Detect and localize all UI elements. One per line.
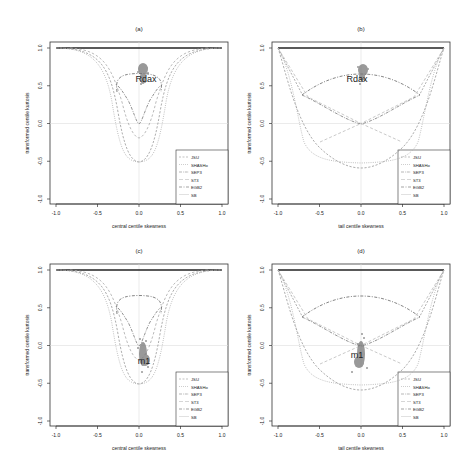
panel-d-xticks: -1.0 -0.5 0.0 0.5 1.0 bbox=[274, 432, 448, 438]
svg-text:SHASHo: SHASHo bbox=[413, 163, 430, 168]
svg-text:SB: SB bbox=[413, 193, 419, 198]
svg-text:JSU: JSU bbox=[413, 155, 421, 160]
panel-c bbox=[47, 264, 228, 429]
svg-text:SEP3: SEP3 bbox=[413, 392, 424, 397]
svg-text:SB: SB bbox=[191, 415, 197, 420]
panel-b-yticks: 1.0 0.5 0.0 -0.5 -1.0 bbox=[259, 44, 265, 203]
panel-a-title: (a) bbox=[135, 26, 142, 32]
svg-text:-1.0: -1.0 bbox=[274, 432, 283, 438]
svg-text:1.0: 1.0 bbox=[259, 44, 265, 51]
panel-b-xticks: -1.0 -0.5 0.0 0.5 1.0 bbox=[274, 210, 448, 216]
svg-text:-1.0: -1.0 bbox=[37, 416, 43, 425]
panel-c-xticks: -1.0 -0.5 0.0 0.5 1.0 bbox=[52, 432, 226, 438]
svg-text:EGB2: EGB2 bbox=[191, 185, 203, 190]
panel-a bbox=[47, 42, 228, 207]
svg-text:1.0: 1.0 bbox=[219, 432, 226, 438]
svg-text:1.0: 1.0 bbox=[37, 44, 43, 51]
svg-text:-0.5: -0.5 bbox=[93, 210, 102, 216]
svg-text:SHASHo: SHASHo bbox=[413, 385, 430, 390]
panel-c-title: (c) bbox=[136, 248, 143, 254]
svg-text:1.0: 1.0 bbox=[219, 210, 226, 216]
panel-c-xlabel: central centile skewness bbox=[112, 445, 167, 451]
panel-b-xlabel: tail centile skewness bbox=[338, 223, 384, 229]
svg-text:0.5: 0.5 bbox=[37, 82, 43, 89]
svg-text:ST3: ST3 bbox=[413, 178, 421, 183]
svg-text:0.5: 0.5 bbox=[177, 432, 184, 438]
svg-text:1.0: 1.0 bbox=[441, 432, 448, 438]
panel-b-title: (b) bbox=[357, 26, 364, 32]
svg-text:0.5: 0.5 bbox=[177, 210, 184, 216]
svg-text:-0.5: -0.5 bbox=[93, 432, 102, 438]
svg-text:SB: SB bbox=[191, 193, 197, 198]
panel-b-annotation: Rdax bbox=[346, 74, 368, 84]
svg-text:ST3: ST3 bbox=[191, 400, 199, 405]
panel-d-title: (d) bbox=[357, 248, 364, 254]
panel-c-ylabel: transformed centile kurtosis bbox=[24, 314, 30, 376]
svg-text:EGB2: EGB2 bbox=[191, 407, 203, 412]
svg-text:ST3: ST3 bbox=[191, 178, 199, 183]
svg-text:0.0: 0.0 bbox=[37, 120, 43, 127]
svg-text:1.0: 1.0 bbox=[441, 210, 448, 216]
panel-c-annotation: m1 bbox=[138, 356, 151, 366]
svg-text:0.5: 0.5 bbox=[37, 304, 43, 311]
svg-text:0.5: 0.5 bbox=[399, 432, 406, 438]
svg-text:-1.0: -1.0 bbox=[52, 210, 61, 216]
svg-text:-1.0: -1.0 bbox=[259, 194, 265, 203]
panel-a-xlabel: central centile skewness bbox=[112, 223, 167, 229]
panel-d bbox=[269, 264, 450, 429]
svg-text:-0.5: -0.5 bbox=[259, 379, 265, 388]
svg-text:0.0: 0.0 bbox=[259, 342, 265, 349]
svg-text:SEP3: SEP3 bbox=[191, 170, 202, 175]
svg-text:1.0: 1.0 bbox=[37, 266, 43, 273]
svg-text:-1.0: -1.0 bbox=[274, 210, 283, 216]
panel-b bbox=[269, 42, 450, 207]
svg-text:EGB2: EGB2 bbox=[413, 185, 425, 190]
svg-text:0.0: 0.0 bbox=[358, 210, 365, 216]
panel-a-yticks: 1.0 0.5 0.0 -0.5 -1.0 bbox=[37, 44, 43, 203]
svg-text:-0.5: -0.5 bbox=[315, 432, 324, 438]
svg-text:0.5: 0.5 bbox=[259, 82, 265, 89]
panel-c-yticks: 1.0 0.5 0.0 -0.5 -1.0 bbox=[37, 266, 43, 425]
figure: (a) Rdax central centile skewness transf… bbox=[0, 0, 475, 469]
panel-a-ylabel: transformed centile kurtosis bbox=[24, 92, 30, 154]
svg-text:JSU: JSU bbox=[413, 377, 421, 382]
svg-text:EGB2: EGB2 bbox=[413, 407, 425, 412]
panel-a-xticks: -1.0 -0.5 0.0 0.5 1.0 bbox=[52, 210, 226, 216]
panel-d-annotation: m1 bbox=[351, 350, 364, 360]
panel-a-annotation: Rdax bbox=[135, 74, 157, 84]
svg-text:-1.0: -1.0 bbox=[259, 416, 265, 425]
svg-text:1.0: 1.0 bbox=[259, 266, 265, 273]
svg-text:0.0: 0.0 bbox=[358, 432, 365, 438]
svg-text:0.0: 0.0 bbox=[136, 210, 143, 216]
svg-text:-0.5: -0.5 bbox=[315, 210, 324, 216]
panel-d-yticks: 1.0 0.5 0.0 -0.5 -1.0 bbox=[259, 266, 265, 425]
svg-text:0.0: 0.0 bbox=[259, 120, 265, 127]
svg-text:ST3: ST3 bbox=[413, 400, 421, 405]
svg-text:SHASHo: SHASHo bbox=[191, 163, 208, 168]
svg-text:-1.0: -1.0 bbox=[52, 432, 61, 438]
panel-b-ylabel: transformed centile kurtosis bbox=[246, 92, 252, 154]
svg-text:-1.0: -1.0 bbox=[37, 194, 43, 203]
svg-text:-0.5: -0.5 bbox=[259, 157, 265, 166]
svg-text:JSU: JSU bbox=[191, 377, 199, 382]
svg-text:-0.5: -0.5 bbox=[37, 379, 43, 388]
svg-text:SHASHo: SHASHo bbox=[191, 385, 208, 390]
svg-text:-0.5: -0.5 bbox=[37, 157, 43, 166]
svg-text:JSU: JSU bbox=[191, 155, 199, 160]
svg-text:0.5: 0.5 bbox=[399, 210, 406, 216]
svg-text:SEP3: SEP3 bbox=[413, 170, 424, 175]
svg-text:0.5: 0.5 bbox=[259, 304, 265, 311]
svg-text:0.0: 0.0 bbox=[37, 342, 43, 349]
svg-text:SB: SB bbox=[413, 415, 419, 420]
panel-d-xlabel: tail centile skewness bbox=[338, 445, 384, 451]
svg-text:SEP3: SEP3 bbox=[191, 392, 202, 397]
svg-text:0.0: 0.0 bbox=[136, 432, 143, 438]
panel-d-ylabel: transformed centile kurtosis bbox=[246, 314, 252, 376]
